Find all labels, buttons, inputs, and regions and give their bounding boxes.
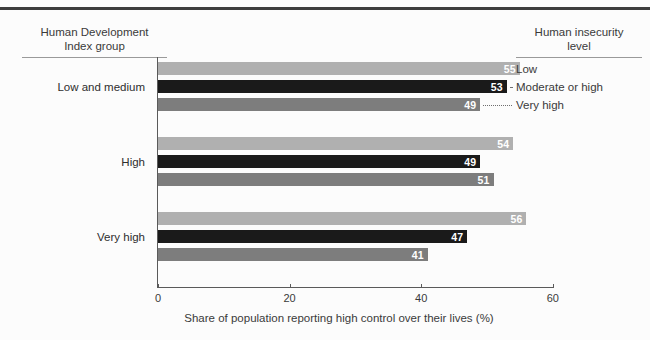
bar: 51 [158,173,494,186]
category-label: Very high [5,231,145,243]
category-label: Low and medium [5,81,145,93]
bar: 55 [158,62,520,75]
bar: 56 [158,212,526,225]
bar-value-label: 53 [491,81,503,93]
plot-area: 0204060 555349544951564741 Low and mediu… [0,0,650,340]
bar: 53 [158,80,507,93]
category-label: High [5,156,145,168]
legend-item-low: Low [516,63,537,75]
x-tick-mark [553,284,554,288]
x-tick-mark [158,284,159,288]
x-tick-label: 60 [547,292,559,304]
bar-value-label: 55 [504,63,516,75]
bar: 54 [158,137,513,150]
legend-item-moderate-or-high: Moderate or high [516,81,603,93]
bar-value-label: 56 [510,213,522,225]
bar-value-label: 41 [412,249,424,261]
bar: 49 [158,155,480,168]
x-axis-line [157,287,553,288]
x-tick-label: 40 [415,292,427,304]
x-tick-mark [421,284,422,288]
x-tick-label: 20 [283,292,295,304]
bar-value-label: 49 [464,156,476,168]
legend-leader-line [483,105,512,106]
bar: 41 [158,248,428,261]
bar: 47 [158,230,467,243]
x-tick-mark [290,284,291,288]
bar-value-label: 49 [464,99,476,111]
bar-value-label: 51 [477,174,489,186]
x-axis-title-text: Share of population reporting high contr… [184,312,493,324]
x-tick-label: 0 [155,292,161,304]
bar-value-label: 54 [497,138,509,150]
x-axis-title: Share of population reporting high contr… [0,312,650,324]
chart-figure: Human Development Index group Human inse… [0,0,650,340]
legend-item-very-high: Very high [516,99,564,111]
legend-leader-line [510,87,512,88]
bar: 49 [158,98,480,111]
bar-value-label: 47 [451,231,463,243]
